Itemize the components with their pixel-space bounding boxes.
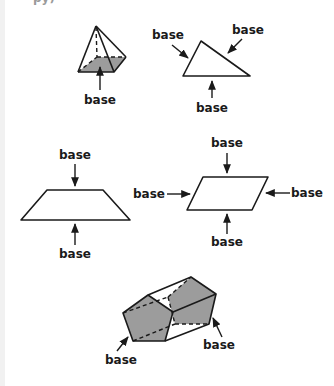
base-label: base <box>133 187 165 201</box>
base-label: base <box>105 353 137 367</box>
bases-diagram: base base base base base base base base … <box>0 0 334 386</box>
base-label: base <box>59 148 91 162</box>
square-pyramid-figure: base <box>78 26 126 107</box>
base-label: base <box>59 247 91 261</box>
triangle-figure: base base base <box>152 23 264 115</box>
base-label: base <box>211 235 243 249</box>
trapezoid-figure: base base <box>21 148 130 261</box>
pyramid-base-shade <box>78 57 126 72</box>
base-label: base <box>291 186 323 200</box>
parallelogram-figure: base base base base <box>133 136 323 249</box>
base-label: base <box>152 28 184 42</box>
base-label: base <box>232 23 264 37</box>
arrow-icon <box>213 318 222 337</box>
base-label: base <box>211 136 243 150</box>
pentagonal-prism-figure: base base <box>105 277 235 367</box>
base-label: base <box>203 338 235 352</box>
base-label: base <box>84 93 116 107</box>
arrow-icon <box>172 45 188 58</box>
base-label: base <box>196 101 228 115</box>
arrow-icon <box>228 39 242 53</box>
arrow-icon <box>117 337 128 351</box>
